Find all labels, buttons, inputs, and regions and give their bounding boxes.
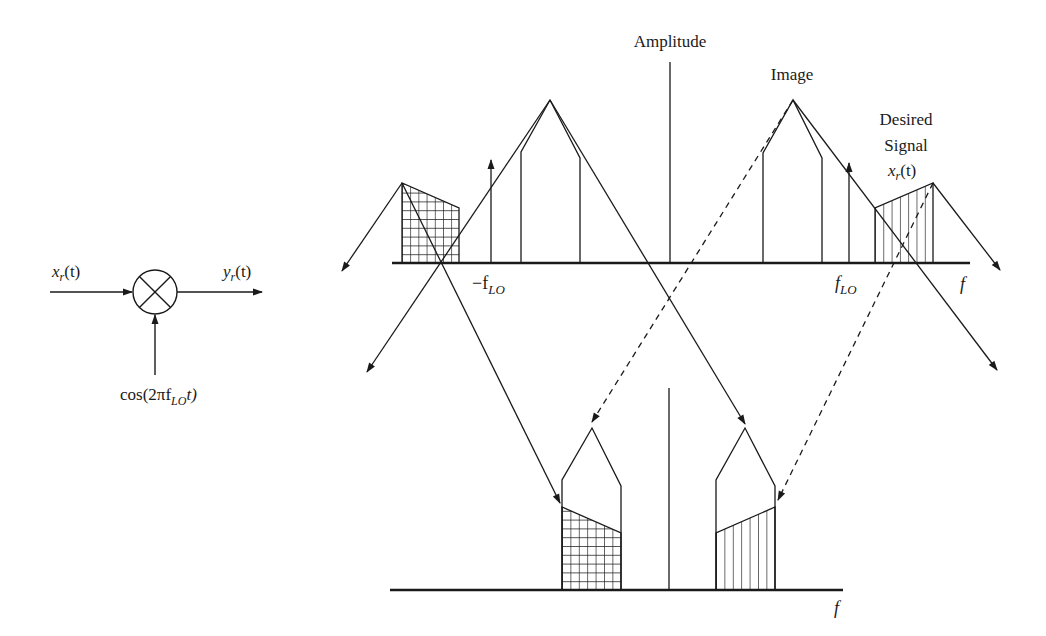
pos-lo-label: fLO — [835, 273, 857, 297]
bottom-freq-label: f — [834, 598, 842, 618]
mixer-block — [50, 270, 262, 375]
input-label: xr(t) — [51, 262, 80, 284]
neg-lo-label: −fLO — [472, 273, 505, 297]
neg-desired-hatched-region — [402, 183, 459, 263]
desired-signal-region — [875, 183, 933, 263]
desired-label-line2: Signal — [884, 136, 928, 155]
amplitude-label: Amplitude — [634, 32, 707, 51]
top-freq-label: f — [960, 274, 968, 294]
downconvert-arrow-neg — [402, 183, 560, 503]
mixer-spectrum-diagram: xr(t) yr(t) cos(2πfLOt) Amplitude Image … — [0, 0, 1046, 636]
image-label: Image — [771, 65, 813, 84]
desired-label-line1: Desired — [880, 110, 933, 129]
if-desired-region — [716, 507, 775, 590]
if-neg-hatched-region — [562, 507, 621, 590]
bottom-spectrum — [390, 388, 843, 590]
neg-image-band — [521, 100, 580, 263]
image-band — [763, 100, 822, 263]
desired-symbol: xr(t) — [887, 161, 916, 183]
lo-label: cos(2πfLOt) — [120, 385, 197, 408]
output-label: yr(t) — [221, 262, 251, 284]
